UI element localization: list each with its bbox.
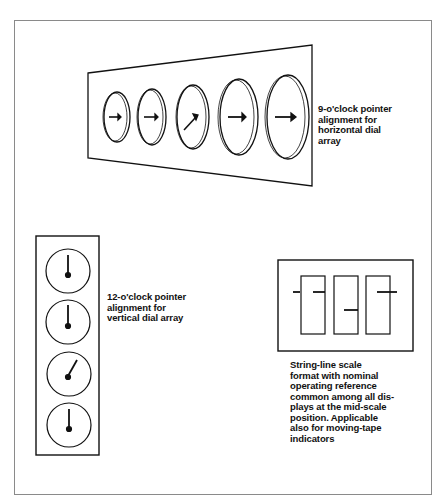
- dial-icon: [218, 79, 258, 155]
- string-line-panel: [278, 260, 413, 351]
- tape-indicator-deviating: [334, 276, 358, 334]
- caption-horizontal-dial-array: 9-o'clock pointer alignment for horizont…: [318, 104, 428, 146]
- tape-indicator: [366, 276, 397, 334]
- string-line-scale: [278, 260, 413, 351]
- dial-icon: [46, 249, 90, 293]
- dial-icon-deviating: [176, 85, 209, 149]
- dial-icon: [137, 89, 166, 145]
- dial-icon-deviating: [47, 352, 91, 396]
- dial-icon: [47, 403, 91, 447]
- vertical-dial-array: [36, 236, 99, 455]
- caption-vertical-dial-array: 12-o'clock pointer alignment for vertica…: [107, 292, 227, 324]
- trapezoid-panel: [88, 45, 312, 186]
- dial-icon: [103, 92, 130, 142]
- tape-indicator: [293, 276, 325, 334]
- caption-string-line-scale: String-line scale format with nominal op…: [290, 360, 410, 444]
- horizontal-dial-array: [88, 45, 312, 186]
- dial-icon: [265, 75, 309, 159]
- dial-icon: [46, 300, 90, 344]
